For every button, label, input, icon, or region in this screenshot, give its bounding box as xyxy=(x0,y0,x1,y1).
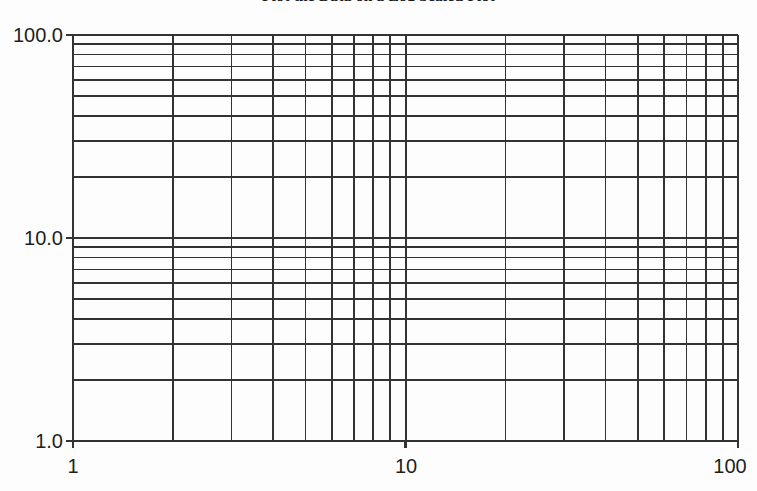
y-tick-label-1: 1.0 xyxy=(35,430,63,453)
x-tick-label-100: 100 xyxy=(700,455,757,478)
y-tick-label-10: 10.0 xyxy=(24,227,63,250)
x-tick-label-1: 1 xyxy=(43,455,103,478)
y-tick-label-100: 100.0 xyxy=(13,24,63,47)
figure-canvas: Plot the Data on a Log Scaled Plot 100.0… xyxy=(0,0,757,491)
log-log-grid xyxy=(0,0,757,491)
x-tick-label-10: 10 xyxy=(376,455,436,478)
